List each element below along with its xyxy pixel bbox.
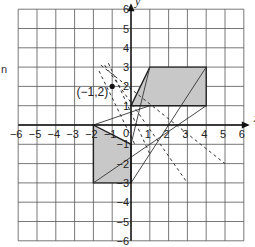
y-tick-label: 2: [123, 80, 129, 92]
y-tick-label: 6: [123, 3, 129, 15]
coordinate-grid-diagram: −6−5−4−3−2−11234560654321−1−2−3−4−5−6xy(…: [0, 0, 255, 247]
y-tick-label: −1: [116, 138, 129, 150]
center-point-label: (−1,2): [77, 85, 109, 99]
y-tick-label: 5: [123, 23, 129, 35]
x-axis-label: x: [253, 111, 255, 125]
axis-labels: −6−5−4−3−2−11234560654321−1−2−3−4−5−6xy(…: [10, 0, 255, 247]
x-tick-label: −5: [29, 128, 42, 140]
x-tick-label: −3: [66, 128, 79, 140]
y-tick-label: −5: [116, 216, 129, 228]
y-tick-label: 1: [123, 100, 129, 112]
y-tick-label: −4: [116, 196, 129, 208]
y-tick-label: −3: [116, 177, 129, 189]
y-tick-label: −2: [116, 158, 129, 170]
y-tick-label: −6: [116, 235, 129, 247]
x-tick-label: 4: [201, 128, 207, 140]
y-axis-label: y: [134, 0, 141, 8]
x-tick-label: 1: [145, 128, 151, 140]
x-tick-label: 5: [220, 128, 226, 140]
origin-label: 0: [123, 127, 129, 139]
solid-ray: [93, 106, 149, 125]
x-tick-label: 2: [164, 128, 170, 140]
center-point: [110, 84, 115, 89]
y-tick-label: 3: [123, 61, 129, 73]
parallelogram-shape: [131, 67, 206, 106]
x-tick-label: 6: [239, 128, 245, 140]
x-tick-label: −6: [10, 128, 23, 140]
y-tick-label: 4: [123, 42, 129, 54]
x-tick-label: −2: [85, 128, 98, 140]
axes: [18, 3, 250, 241]
x-tick-label: −4: [48, 128, 61, 140]
x-tick-label: −1: [104, 128, 117, 140]
x-tick-label: 3: [182, 128, 188, 140]
